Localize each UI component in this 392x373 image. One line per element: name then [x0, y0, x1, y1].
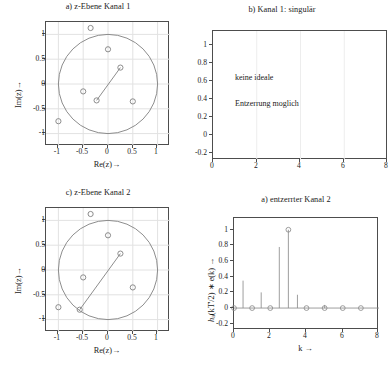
panel-a-xtick-4: 1	[154, 147, 158, 156]
panel-d-ylabel-sub: a	[210, 315, 216, 318]
panel-d-xtick-2: 4	[303, 331, 307, 340]
panel-d-title: a) entzerrter Kanal 2	[198, 195, 392, 204]
panel-b-annotation-line2: Entzerrung moglich	[235, 99, 299, 108]
panel-a-title: a) z-Ebene Kanal 1	[0, 2, 196, 11]
panel-d-ylabel-h: h	[207, 318, 216, 322]
panel-d-stem-plot	[234, 218, 379, 330]
panel-b-xtick-0: 0	[210, 161, 214, 170]
panel-c-ytick-3: -0.5	[33, 290, 45, 299]
panel-b-ytick-4: 0.2	[198, 112, 208, 121]
panel-c-ytick-4: -1	[39, 314, 45, 323]
panel-d-xlabel: k →	[233, 344, 378, 353]
panel-a-xtick-0: -1	[54, 147, 60, 156]
panel-c-xtick-3: 0.5	[127, 333, 137, 342]
pole-zero-connector	[80, 254, 121, 310]
panel-a-ytick-4: -1	[39, 128, 45, 137]
panel-d-ylabel: ha(kT'/2) ∗ e(k) →	[206, 258, 216, 322]
panel-a-xtick-3: 0.5	[127, 147, 137, 156]
panel-a-xlabel: Re(z)→	[45, 160, 169, 169]
panel-d-xtick-3: 6	[340, 331, 344, 340]
panel-c-z-plane-kanal-2: c) z-Ebene Kanal 2	[0, 186, 196, 373]
panel-d-ytick-5: 0	[224, 303, 228, 312]
panel-c-xtick-1: -0.5	[76, 333, 88, 342]
panel-d-entzerrter-kanal-2: a) entzerrter Kanal 2	[196, 186, 392, 373]
panel-b-kanal-1-singular: b) Kanal 1: singulär keine ideale Entzer…	[196, 0, 392, 186]
panel-d-xtick-4: 8	[375, 331, 379, 340]
panel-c-ytick-1: 0.5	[36, 240, 46, 249]
panel-c-xtick-4: 1	[154, 333, 158, 342]
panel-c-ylabel: Im(z)→	[14, 267, 23, 294]
panel-a-xtick-2: 0	[105, 147, 109, 156]
panel-a-ylabel: Im(z)→	[14, 81, 23, 108]
panel-a-ytick-3: -0.5	[33, 104, 45, 113]
panel-d-axes	[233, 217, 378, 329]
panel-c-xlabel: Re(z)→	[45, 346, 169, 355]
panel-d-xtick-1: 2	[267, 331, 271, 340]
panel-d-xtick-0: 0	[231, 331, 235, 340]
panel-b-ytick-3: 0.4	[198, 94, 208, 103]
panel-a-axes	[45, 21, 169, 145]
panel-d-ytick-1: 0.8	[219, 240, 229, 249]
panel-a-plot	[46, 22, 170, 146]
panel-b-annotation-line1: keine ideale	[235, 73, 273, 82]
panel-b-xtick-1: 2	[254, 161, 258, 170]
panel-d-ytick-2: 0.6	[219, 256, 229, 265]
panel-a-ytick-2: 0	[41, 79, 45, 88]
pole-zero-markers	[56, 211, 136, 312]
panel-c-xtick-0: -1	[54, 333, 60, 342]
panel-c-title: c) z-Ebene Kanal 2	[0, 188, 196, 197]
panel-a-ytick-0: 1	[41, 29, 45, 38]
panel-c-axes	[45, 207, 169, 331]
panel-b-plot	[213, 31, 388, 160]
stem-lines	[243, 230, 325, 308]
panel-c-xtick-2: 0	[105, 333, 109, 342]
panel-d-ylabel-rest: (kT'/2) ∗ e(k) →	[207, 258, 216, 316]
panel-b-ytick-6: -0.2	[195, 148, 207, 157]
panel-b-axes: keine ideale Entzerrung moglich	[212, 30, 387, 159]
panel-a-z-plane-kanal-1: a) z-Ebene Kanal 1	[0, 0, 196, 186]
panel-b-ytick-1: 0.8	[198, 58, 208, 67]
panel-c-ytick-0: 1	[41, 215, 45, 224]
panel-d-ytick-4: 0.2	[219, 287, 229, 296]
panel-a-ytick-1: 0.5	[36, 54, 46, 63]
panel-b-xtick-2: 4	[297, 161, 301, 170]
figure-canvas: a) z-Ebene Kanal 1	[0, 0, 392, 373]
panel-b-ytick-5: 0	[203, 130, 207, 139]
panel-c-plot	[46, 208, 170, 332]
panel-d-ytick-0: 1	[224, 225, 228, 234]
panel-b-title: b) Kanal 1: singulär	[184, 5, 380, 14]
panel-b-ytick-2: 0.6	[198, 76, 208, 85]
panel-c-ytick-2: 0	[41, 265, 45, 274]
panel-b-ytick-0: 1	[203, 40, 207, 49]
panel-d-ytick-3: 0.4	[219, 272, 229, 281]
panel-d-ytick-6: -0.2	[216, 319, 228, 328]
panel-b-xtick-3: 6	[341, 161, 345, 170]
panel-a-xtick-1: -0.5	[76, 147, 88, 156]
panel-b-xtick-4: 8	[384, 161, 388, 170]
